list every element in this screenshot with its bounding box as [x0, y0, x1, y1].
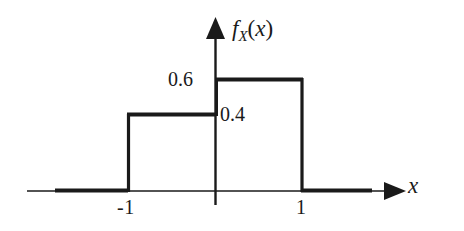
x-axis-arrow-icon	[384, 182, 406, 200]
y-axis-label-subscript: X	[238, 28, 247, 44]
x-tick-label-neg1: -1	[117, 196, 135, 219]
x-axis-label: x	[408, 173, 418, 199]
y-axis-label: fX(x)	[232, 16, 273, 45]
y-value-label-0p4: 0.4	[220, 103, 245, 126]
y-axis-arrow-icon	[206, 17, 225, 39]
y-axis-label-paren-close: )	[265, 16, 273, 41]
y-value-label-0p6: 0.6	[168, 68, 193, 91]
pdf-figure: fX(x) x -1 1 0.6 0.4	[0, 0, 464, 231]
y-axis-label-arg: x	[255, 16, 265, 41]
x-tick-label-pos1: 1	[296, 196, 307, 219]
